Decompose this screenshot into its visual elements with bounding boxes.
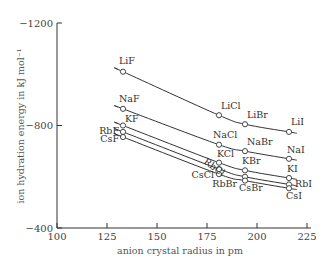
x-axis-title: anion crystal radius in pm [117,245,243,256]
curve-li [114,68,297,134]
marker-ki [286,175,291,180]
axes: 100125150175200225−1200−800−400 [19,18,316,243]
label-libr: LiBr [247,109,268,120]
label-naf: NaF [119,93,140,104]
label-licl: LiCl [221,100,241,111]
label-cscl: CsCl [192,169,214,180]
marker-licl [216,113,221,118]
marker-csf [120,134,125,139]
label-ki: KI [287,163,298,174]
label-kcl: KCl [217,148,234,159]
label-kf: KF [125,113,139,124]
label-csf: CsF [100,133,119,144]
label-csbr: CsBr [239,182,263,193]
marker-nabr [242,149,247,154]
marker-lif [120,69,125,74]
label-lif: LiF [119,55,135,66]
label-nacl: NaCl [213,129,237,140]
x-tick-label: 225 [297,231,316,242]
point-labels: LiFLiClLiBrLiINaFNaClNaBrNaIKFKClKBrKIRb… [99,55,312,202]
x-tick-label: 150 [147,231,166,242]
y-tick-label: −800 [26,120,53,131]
axis-lines [57,23,311,228]
label-rbi: RbI [295,178,312,189]
marker-naf [120,106,125,111]
marker-rbf [120,129,125,134]
marker-lii [286,129,291,134]
label-rbbr: RbBr [212,178,237,189]
label-nabr: NaBr [247,136,273,147]
label-nai: NaI [287,144,305,155]
x-tick-label: 125 [97,231,116,242]
marker-libr [242,122,247,127]
x-tick-label: 175 [197,231,216,242]
label-lii: LiI [291,116,304,127]
marker-nacl [216,142,221,147]
y-tick-label: −400 [26,223,53,234]
hydration-energy-chart: 100125150175200225−1200−800−400 LiFLiClL… [0,0,330,266]
x-tick-label: 200 [247,231,266,242]
label-kbr: KBr [242,155,261,166]
marker-kbr [242,168,247,173]
y-axis-title: ion hydration energy in kJ mol⁻¹ [15,48,26,203]
marker-kf [120,123,125,128]
label-csi: CsI [286,190,302,201]
y-tick-label: −1200 [19,18,53,29]
marker-nai [286,156,291,161]
